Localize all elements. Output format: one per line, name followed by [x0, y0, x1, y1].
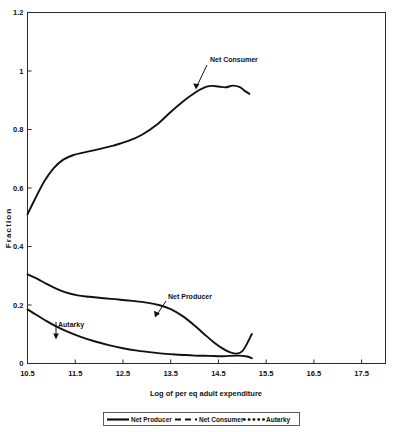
y-tick-label: 1	[19, 67, 23, 76]
legend-item-autarky: Autarky	[244, 416, 291, 424]
annotation-net-consumer-arrowhead	[193, 83, 199, 89]
y-axis-title: Fraction	[4, 208, 13, 248]
x-tick-label: 14.5	[211, 369, 226, 378]
annotation-net-consumer-label: Net Consumer	[210, 56, 258, 63]
y-tick-label: 0.4	[13, 242, 24, 251]
data-curves	[28, 86, 252, 359]
y-axis-ticks: 00.20.40.60.811.2	[13, 8, 31, 368]
x-tick-label: 11.5	[68, 369, 82, 378]
legend-item-net-consumer: Net Consumer	[175, 416, 244, 423]
legend-label: Autarky	[266, 416, 291, 424]
x-axis-title: Log of per eq adult expenditure	[150, 389, 262, 398]
y-tick-label: 0	[19, 359, 23, 368]
x-axis-ticks: 10.511.512.513.514.515.516.517.5	[20, 360, 369, 378]
annotation-net-producer-label: Net Producer	[168, 293, 212, 300]
chart-legend: Net ProducerNet ConsumerAutarky	[104, 413, 300, 426]
x-tick-label: 10.5	[20, 369, 35, 378]
y-tick-label: 0.6	[13, 184, 23, 193]
curve-net-producer	[28, 274, 252, 353]
annotation-net-consumer: Net Consumer	[193, 56, 258, 90]
x-tick-label: 17.5	[354, 369, 369, 378]
legend-label: Net Producer	[131, 416, 172, 423]
annotation-autarky-arrowhead	[53, 333, 59, 339]
y-tick-label: 0.2	[13, 301, 23, 310]
figure-canvas: 00.20.40.60.811.2 10.511.512.513.514.515…	[0, 0, 398, 432]
y-tick-label: 0.8	[13, 125, 23, 134]
x-tick-label: 13.5	[163, 369, 178, 378]
y-tick-label: 1.2	[13, 8, 23, 17]
x-tick-label: 15.5	[259, 369, 274, 378]
annotation-net-producer: Net Producer	[154, 293, 212, 318]
x-tick-label: 12.5	[116, 369, 131, 378]
x-tick-label: 16.5	[307, 369, 322, 378]
legend-item-net-producer: Net Producer	[107, 416, 172, 423]
curve-autarky	[28, 309, 252, 358]
legend-label: Net Consumer	[199, 416, 244, 423]
annotation-autarky-label: Autarky	[58, 321, 84, 329]
curve-net-consumer	[28, 86, 250, 215]
